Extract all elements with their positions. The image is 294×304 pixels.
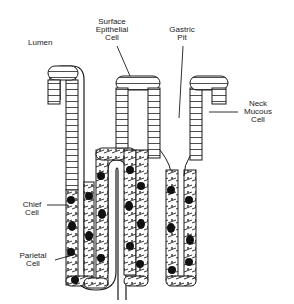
- label-chief-cell: Chief Cell: [18, 201, 46, 217]
- label-parietal-cell: Parietal Cell: [14, 252, 52, 268]
- label-gastric-pit: Gastric Pit: [164, 26, 200, 42]
- gland-right-y: [160, 76, 228, 286]
- label-neck-mucous-cell: Neck Mucous Cell: [240, 100, 276, 124]
- label-lumen: Lumen: [28, 39, 52, 47]
- gland-central-arch: [116, 76, 160, 286]
- label-surface-epithelial-cell: Surface Epithelial Cell: [88, 18, 136, 42]
